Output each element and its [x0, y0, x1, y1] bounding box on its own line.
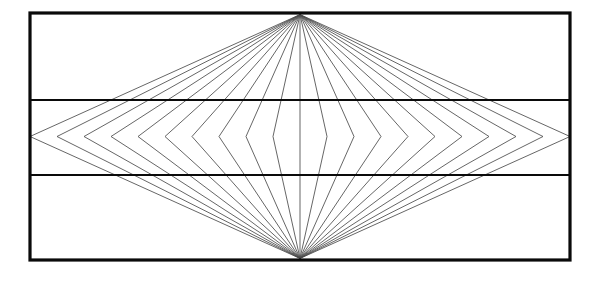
graticule-canvas [0, 0, 598, 281]
projection-figure [0, 0, 598, 281]
